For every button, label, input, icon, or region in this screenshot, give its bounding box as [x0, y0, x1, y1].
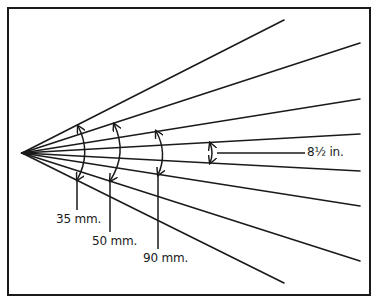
ray-6 [22, 153, 360, 206]
arc-85in-icon [210, 143, 212, 163]
label-90mm: 90 mm. [143, 251, 188, 265]
arc-50mm-icon [110, 124, 120, 181]
apex-point [20, 149, 30, 157]
label-50mm: 50 mm. [92, 234, 137, 248]
arc-90mm-icon [156, 131, 163, 175]
ray-7 [22, 153, 360, 261]
ray-1 [22, 20, 284, 153]
label-85in: 8½ in. [307, 145, 344, 159]
label-35mm: 35 mm. [56, 212, 101, 226]
